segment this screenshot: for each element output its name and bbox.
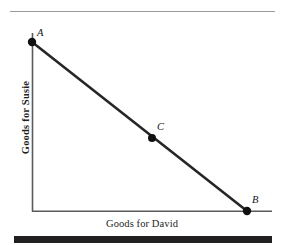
- bottom-solid-bar: [14, 236, 272, 243]
- budget-constraint-line: [32, 42, 247, 211]
- data-point-a: [28, 38, 36, 46]
- x-axis-label: Goods for David: [0, 218, 284, 229]
- data-point-label-a: A: [37, 28, 43, 39]
- data-point-label-b: B: [252, 195, 258, 206]
- figure-panel: A C B Goods for Susie Goods for David: [0, 0, 284, 245]
- y-axis-label: Goods for Susie: [20, 48, 31, 188]
- data-point-label-c: C: [157, 122, 164, 133]
- data-point-b: [243, 207, 251, 215]
- data-point-c: [148, 134, 156, 142]
